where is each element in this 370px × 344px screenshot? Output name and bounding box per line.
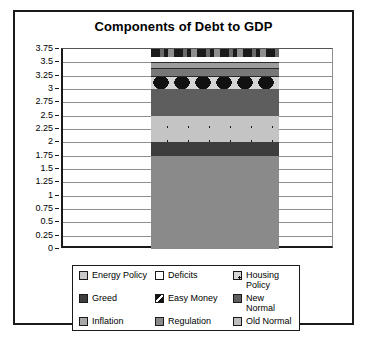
legend-label: New Normal (246, 293, 294, 313)
y-axis-tick-label: 2.25 (35, 124, 53, 133)
legend-label: Inflation (92, 316, 124, 326)
plot-area (61, 48, 333, 248)
y-axis-tick-mark (55, 168, 59, 169)
stacked-bar[interactable] (151, 49, 279, 246)
legend-swatch-icon (155, 317, 164, 326)
y-axis-tick-label: 1.75 (35, 150, 53, 159)
y-axis-tick-mark (55, 248, 59, 249)
y-axis-tick-mark (55, 181, 59, 182)
y-axis-tick-label: 2 (48, 137, 53, 146)
y-axis-tick-label: 2.75 (35, 97, 53, 106)
legend-label: Easy Money (168, 293, 218, 303)
legend-item-energy-policy[interactable]: Energy Policy (79, 270, 155, 290)
y-axis-tick-label: 0 (48, 244, 53, 253)
legend-swatch-icon (79, 317, 88, 326)
legend-label: Regulation (168, 316, 211, 326)
y-axis-tick-label: 2.5 (40, 110, 53, 119)
bar-segment-easy-money[interactable] (151, 76, 279, 89)
bar-segment-deficits[interactable] (151, 57, 279, 63)
y-axis-tick-mark (55, 88, 59, 89)
bar-segment-housing-policy[interactable] (151, 116, 279, 143)
y-axis-tick-mark (55, 115, 59, 116)
y-axis: 3.753.53.2532.752.52.2521.751.51.2510.75… (15, 48, 59, 248)
y-axis-tick-label: 1.25 (35, 177, 53, 186)
legend-label: Deficits (168, 270, 198, 280)
y-axis-tick-mark (55, 195, 59, 196)
bar-segment-new-normal[interactable] (151, 89, 279, 116)
y-axis-tick-label: 3.75 (35, 44, 53, 53)
y-axis-tick-mark (55, 235, 59, 236)
y-axis-tick-mark (55, 208, 59, 209)
legend-swatch-icon (79, 294, 88, 303)
segment-pattern (151, 49, 279, 57)
legend-label: Energy Policy (92, 270, 147, 280)
legend-swatch-pattern (234, 272, 241, 279)
legend-item-new-normal[interactable]: New Normal (233, 293, 294, 313)
chart-legend: Energy PolicyDeficitsHousing PolicyGreed… (72, 265, 300, 331)
y-axis-tick-mark (55, 221, 59, 222)
legend-item-inflation[interactable]: Inflation (79, 316, 155, 326)
bar-segment-energy-policy[interactable] (151, 49, 279, 57)
legend-swatch-pattern (156, 295, 163, 302)
legend-grid: Energy PolicyDeficitsHousing PolicyGreed… (79, 270, 294, 326)
bar-segment-regulation[interactable] (151, 68, 279, 77)
y-axis-tick-mark (55, 141, 59, 142)
legend-swatch-icon (155, 294, 164, 303)
bar-segment-old-normal[interactable] (151, 156, 279, 249)
legend-swatch-icon (233, 271, 242, 280)
legend-swatch-icon (233, 294, 242, 303)
legend-item-housing-policy[interactable]: Housing Policy (233, 270, 294, 290)
legend-label: Greed (92, 293, 117, 303)
y-axis-tick-mark (55, 128, 59, 129)
y-axis-tick-label: 0.5 (40, 217, 53, 226)
legend-item-old-normal[interactable]: Old Normal (233, 316, 294, 326)
legend-swatch-icon (233, 317, 242, 326)
y-axis-tick-mark (55, 61, 59, 62)
bar-segment-greed[interactable] (151, 142, 279, 155)
segment-pattern (151, 76, 279, 89)
y-axis-tick-label: 1.5 (40, 164, 53, 173)
legend-label: Old Normal (246, 316, 292, 326)
chart-frame: Components of Debt to GDP 3.753.53.2532.… (13, 10, 354, 325)
y-axis-tick-mark (55, 101, 59, 102)
y-axis-tick-mark (55, 155, 59, 156)
chart-title: Components of Debt to GDP (15, 19, 352, 34)
y-axis-tick-label: 3.5 (40, 57, 53, 66)
y-axis-tick-label: 0.25 (35, 230, 53, 239)
y-axis-tick-mark (55, 48, 59, 49)
y-axis-tick-label: 0.75 (35, 204, 53, 213)
y-axis-tick-label: 1 (48, 190, 53, 199)
legend-item-easy-money[interactable]: Easy Money (155, 293, 233, 313)
legend-label: Housing Policy (246, 270, 294, 290)
legend-item-regulation[interactable]: Regulation (155, 316, 233, 326)
y-axis-tick-label: 3.25 (35, 70, 53, 79)
legend-swatch-icon (79, 271, 88, 280)
legend-item-deficits[interactable]: Deficits (155, 270, 233, 290)
legend-item-greed[interactable]: Greed (79, 293, 155, 313)
segment-pattern (151, 116, 279, 143)
y-axis-tick-label: 3 (48, 84, 53, 93)
legend-swatch-icon (155, 271, 164, 280)
y-axis-tick-mark (55, 75, 59, 76)
